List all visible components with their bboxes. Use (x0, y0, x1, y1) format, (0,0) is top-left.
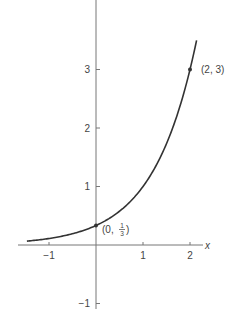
y-tick-label: −1 (79, 298, 91, 309)
point-label-origin: (0, 13) (102, 222, 129, 238)
exponential-graph: −112−1123 (0, 13)(2, 3) x (0, 0, 233, 309)
x-tick-label: 2 (187, 250, 193, 261)
svg-text:): ) (126, 224, 129, 235)
y-tick-label: 2 (84, 123, 90, 134)
ticks: −112−1123 (43, 64, 193, 309)
x-tick-label: −1 (43, 250, 55, 261)
point-marker (188, 68, 192, 72)
point-marker (94, 224, 98, 228)
svg-text:(0,: (0, (102, 224, 114, 235)
x-tick-label: 1 (140, 250, 146, 261)
curve (27, 40, 197, 241)
y-tick-label: 3 (84, 64, 90, 75)
x-axis-label: x (204, 240, 211, 251)
axes (18, 0, 203, 309)
point-label-2-3: (2, 3) (201, 64, 224, 75)
y-tick-label: 1 (84, 181, 90, 192)
svg-text:1: 1 (120, 222, 124, 229)
annotated-points: (0, 13)(2, 3) (94, 64, 224, 238)
svg-text:3: 3 (120, 230, 124, 237)
